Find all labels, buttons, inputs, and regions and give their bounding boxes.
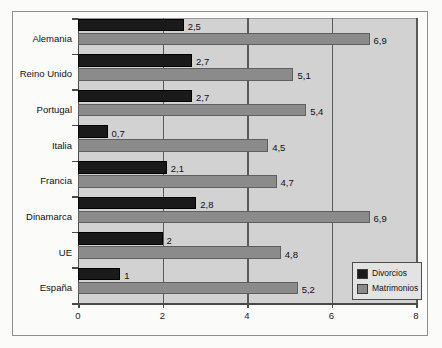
y-tick-end — [72, 303, 78, 305]
legend-label-divorcios: Divorcios — [372, 269, 407, 278]
gridline-6 — [332, 18, 334, 303]
category-label-alemania: Alemania — [0, 32, 72, 43]
bar-matrimonios-portugal — [78, 104, 306, 117]
bar-value-divorcios-ue: 2 — [167, 234, 172, 245]
bar-value-matrimonios-ue: 4,8 — [285, 248, 298, 259]
x-tick-label-6: 6 — [329, 310, 334, 321]
chart-legend: Divorcios Matrimonios — [352, 262, 422, 300]
bar-value-matrimonios-españa: 5,2 — [302, 284, 315, 295]
bar-divorcios-italia — [78, 125, 108, 138]
x-tick-4 — [247, 303, 249, 308]
gridline-4 — [247, 18, 249, 303]
bar-value-matrimonios-alemania: 6,9 — [374, 34, 387, 45]
bar-divorcios-francia — [78, 161, 167, 174]
chart-figure: 02468 AlemaniaReino UnidoPortugalItaliaF… — [0, 0, 442, 348]
x-tick-label-4: 4 — [244, 310, 249, 321]
bar-value-matrimonios-francia: 4,7 — [281, 177, 294, 188]
bar-divorcios-dinamarca — [78, 197, 196, 210]
x-tick-label-2: 2 — [160, 310, 165, 321]
bar-matrimonios-alemania — [78, 33, 370, 46]
category-label-dinamarca: Dinamarca — [0, 210, 72, 221]
category-label-italia: Italia — [0, 139, 72, 150]
legend-swatch-matrimonios — [357, 284, 368, 294]
category-label-portugal: Portugal — [0, 104, 72, 115]
legend-swatch-divorcios — [357, 269, 368, 279]
gridline-8 — [416, 18, 418, 303]
bar-value-divorcios-italia: 0,7 — [112, 127, 125, 138]
bar-matrimonios-francia — [78, 175, 277, 188]
bar-value-divorcios-reino-unido: 2,7 — [196, 56, 209, 67]
x-tick-label-8: 8 — [413, 310, 418, 321]
category-label-reino-unido: Reino Unido — [0, 68, 72, 79]
bar-value-divorcios-españa: 1 — [124, 270, 129, 281]
bar-divorcios-alemania — [78, 19, 184, 32]
x-tick-6 — [332, 303, 334, 308]
bar-divorcios-ue — [78, 232, 163, 245]
bar-value-divorcios-alemania: 2,5 — [188, 20, 201, 31]
legend-label-matrimonios: Matrimonios — [372, 284, 418, 293]
bar-divorcios-españa — [78, 268, 120, 281]
bar-divorcios-portugal — [78, 90, 192, 103]
bar-value-divorcios-dinamarca: 2,8 — [200, 198, 213, 209]
bar-divorcios-reino-unido — [78, 54, 192, 67]
bar-matrimonios-italia — [78, 139, 268, 152]
x-tick-label-0: 0 — [75, 310, 80, 321]
legend-item-matrimonios: Matrimonios — [357, 281, 417, 296]
x-tick-8 — [416, 303, 418, 308]
bar-value-matrimonios-portugal: 5,4 — [310, 106, 323, 117]
bar-value-divorcios-portugal: 2,7 — [196, 92, 209, 103]
bar-matrimonios-reino-unido — [78, 68, 293, 81]
bar-value-matrimonios-dinamarca: 6,9 — [374, 212, 387, 223]
category-label-ue: UE — [0, 246, 72, 257]
bar-matrimonios-dinamarca — [78, 211, 370, 224]
x-tick-0 — [78, 303, 80, 308]
bar-matrimonios-ue — [78, 246, 281, 259]
legend-item-divorcios: Divorcios — [357, 266, 417, 281]
bar-value-divorcios-francia: 2,1 — [171, 163, 184, 174]
bar-value-matrimonios-reino-unido: 5,1 — [297, 70, 310, 81]
category-label-españa: España — [0, 282, 72, 293]
x-tick-2 — [163, 303, 165, 308]
bar-value-matrimonios-italia: 4,5 — [272, 141, 285, 152]
category-label-francia: Francia — [0, 175, 72, 186]
bar-matrimonios-españa — [78, 282, 298, 295]
